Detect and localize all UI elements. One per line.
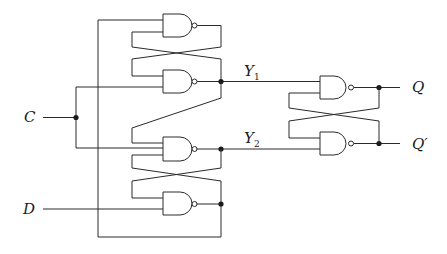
label-y2-subscript: 2 — [254, 139, 260, 149]
nand-gate-4 — [163, 192, 197, 215]
c-junction-dot — [73, 115, 78, 120]
label-q-prime: Q′ — [412, 135, 428, 153]
nand-gate-6 — [320, 132, 354, 155]
nand-gate-3 — [163, 137, 197, 161]
nand-gate-2 — [163, 70, 197, 93]
nand-gate-1 — [163, 14, 197, 37]
g4-junction-dot — [218, 201, 223, 206]
label-y1-subscript: 1 — [254, 72, 260, 82]
label-q: Q — [412, 78, 424, 96]
circuit-diagram: C D Y 1 Y 2 Q Q′ — [0, 0, 447, 254]
c-branch-wire — [76, 87, 163, 148]
label-d: D — [22, 200, 35, 218]
label-c: C — [24, 108, 36, 126]
nand-gate-5 — [320, 76, 354, 99]
